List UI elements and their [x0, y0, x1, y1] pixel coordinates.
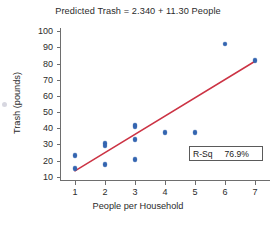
x-tick-mark: [165, 181, 166, 185]
y-tick-mark: [57, 161, 61, 162]
x-tick-label: 3: [127, 187, 143, 197]
x-tick-mark: [75, 181, 76, 185]
y-tick-mark: [57, 47, 61, 48]
y-tick-label: 50: [27, 107, 53, 117]
y-tick-mark: [57, 64, 61, 65]
y-tick-label: 100: [27, 26, 53, 36]
r-squared-value: 76.9%: [225, 149, 249, 159]
data-point-marker: [73, 153, 78, 158]
x-tick-mark: [255, 181, 256, 185]
x-tick-label: 2: [97, 187, 113, 197]
x-axis-label: People per Household: [0, 201, 276, 211]
y-tick-label: 80: [27, 59, 53, 69]
r-squared-label: R-Sq: [193, 149, 213, 159]
r-squared-annotation-box: R-Sq 76.9%: [189, 146, 263, 161]
y-tick-mark: [57, 96, 61, 97]
x-tick-label: 5: [187, 187, 203, 197]
scatter-plot-figure: Predicted Trash = 2.340 + 11.30 People T…: [0, 0, 276, 226]
x-tick-mark: [135, 181, 136, 185]
data-point-marker: [133, 124, 138, 129]
x-tick-label: 6: [217, 187, 233, 197]
y-tick-mark: [57, 128, 61, 129]
y-tick-label: 10: [27, 172, 53, 182]
data-point-marker: [133, 137, 138, 142]
x-tick-label: 7: [247, 187, 263, 197]
scan-artifact-speck: [2, 102, 7, 107]
data-point-marker: [163, 130, 168, 135]
data-point-marker: [193, 130, 198, 135]
y-tick-mark: [57, 112, 61, 113]
x-tick-mark: [195, 181, 196, 185]
y-tick-label: 70: [27, 75, 53, 85]
x-tick-label: 4: [157, 187, 173, 197]
x-tick-label: 1: [67, 187, 83, 197]
data-point-marker: [103, 144, 108, 149]
chart-title: Predicted Trash = 2.340 + 11.30 People: [0, 6, 276, 16]
y-axis-label: Trash (pounds): [12, 53, 22, 153]
y-tick-label: 40: [27, 123, 53, 133]
y-tick-label: 60: [27, 91, 53, 101]
data-point-marker: [133, 157, 138, 162]
y-tick-label: 20: [27, 156, 53, 166]
y-tick-mark: [57, 144, 61, 145]
x-tick-mark: [105, 181, 106, 185]
y-tick-label: 90: [27, 42, 53, 52]
y-tick-mark: [57, 31, 61, 32]
data-point-marker: [253, 58, 258, 63]
y-tick-mark: [57, 177, 61, 178]
data-point-marker: [103, 162, 108, 167]
y-tick-label: 30: [27, 139, 53, 149]
data-point-marker: [73, 166, 78, 171]
x-tick-mark: [225, 181, 226, 185]
data-point-marker: [223, 42, 228, 47]
y-tick-mark: [57, 80, 61, 81]
y-axis-line: [60, 28, 61, 180]
